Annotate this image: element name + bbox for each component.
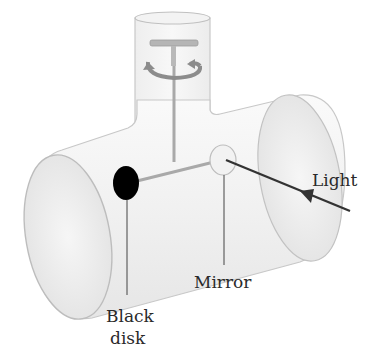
black-disk-label-line2: disk xyxy=(110,328,145,348)
mirror-label: Mirror xyxy=(194,272,251,292)
black-disk xyxy=(113,166,139,200)
horizontal-tube xyxy=(12,88,354,326)
black-disk-label-line1: Black xyxy=(106,306,154,326)
mirror xyxy=(210,145,236,175)
light-label: Light xyxy=(312,170,357,190)
diagram: Light Mirror Black disk xyxy=(0,0,374,364)
